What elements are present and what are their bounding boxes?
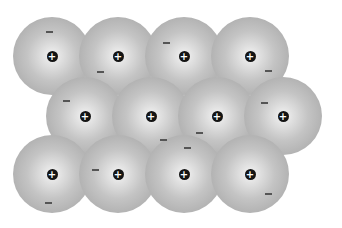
electron-minus-icon — [261, 102, 268, 104]
positive-ion-icon: + — [245, 169, 256, 180]
metallic-bonding-diagram: ++++++++++++ — [0, 0, 342, 228]
positive-ion-icon: + — [113, 169, 124, 180]
positive-ion-icon: + — [179, 51, 190, 62]
electron-minus-icon — [63, 100, 70, 102]
electron-minus-icon — [46, 31, 53, 33]
positive-ion-icon: + — [278, 111, 289, 122]
positive-ion-icon: + — [179, 169, 190, 180]
positive-ion-icon: + — [212, 111, 223, 122]
positive-ion-icon: + — [146, 111, 157, 122]
electron-minus-icon — [45, 202, 52, 204]
positive-ion-icon: + — [113, 51, 124, 62]
electron-minus-icon — [184, 147, 191, 149]
electron-minus-icon — [163, 42, 170, 44]
positive-ion-icon: + — [80, 111, 91, 122]
electron-minus-icon — [265, 193, 272, 195]
electron-minus-icon — [92, 169, 99, 171]
electron-minus-icon — [97, 71, 104, 73]
electron-minus-icon — [160, 139, 167, 141]
positive-ion-icon: + — [47, 169, 58, 180]
electron-minus-icon — [265, 70, 272, 72]
positive-ion-icon: + — [245, 51, 256, 62]
positive-ion-icon: + — [47, 51, 58, 62]
electron-minus-icon — [196, 132, 203, 134]
